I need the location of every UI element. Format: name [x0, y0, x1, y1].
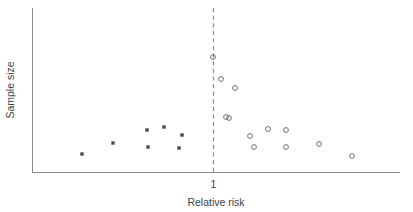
data-point	[80, 152, 83, 155]
data-point	[233, 86, 238, 91]
x-axis-label: Relative risk	[187, 196, 245, 208]
data-point	[266, 127, 271, 132]
series-open-markers	[211, 55, 355, 159]
data-point	[350, 154, 355, 159]
axes-group	[32, 8, 400, 173]
data-point	[219, 77, 224, 82]
data-point	[180, 133, 183, 136]
data-point	[252, 145, 257, 150]
data-point	[145, 128, 148, 131]
series-filled-markers	[80, 125, 183, 155]
funnel-plot-canvas: 1 Relative risk Sample size	[0, 0, 413, 212]
funnel-plot-figure: 1 Relative risk Sample size	[0, 0, 413, 212]
data-point	[111, 141, 114, 144]
data-point	[162, 125, 165, 128]
data-point	[284, 145, 289, 150]
data-point	[317, 142, 322, 147]
data-point	[248, 134, 253, 139]
data-point	[284, 128, 289, 133]
data-point	[227, 116, 232, 121]
data-point	[177, 146, 180, 149]
data-point	[224, 115, 229, 120]
y-axis-label: Sample size	[4, 61, 16, 118]
data-point	[146, 145, 149, 148]
x-axis-tick-label-1: 1	[211, 178, 217, 190]
